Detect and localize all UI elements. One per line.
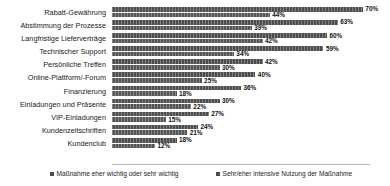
chart-row: Technischer Support59%34% (0, 45, 390, 58)
category-label: Kundenzeitschriften (0, 124, 106, 137)
legend-swatch-icon (50, 172, 54, 176)
bar-secondary (112, 78, 202, 83)
bar-group: 63%39% (112, 19, 390, 32)
bar-value-label: 39% (254, 25, 267, 31)
bar-secondary (112, 130, 187, 135)
bar-value-label: 70% (365, 6, 378, 12)
category-label: Einladungen und Präsente (0, 98, 106, 111)
legend-item-nutzung: Sehr/eher intensive Nutzung der Maßnahme (216, 170, 352, 178)
bar-group: 36%18% (112, 85, 390, 98)
bar-primary (112, 72, 255, 77)
legend-label: Maßnahme eher wichtig oder sehr wichtig (57, 170, 179, 178)
bar-group: 40%25% (112, 71, 390, 84)
bar-secondary (112, 26, 252, 31)
bar-primary (112, 7, 363, 12)
bar-secondary (112, 13, 270, 18)
bar-primary (112, 112, 209, 117)
bar-value-label: 30% (222, 98, 235, 104)
bar-group: 30%22% (112, 98, 390, 111)
chart-row: Langfristige Lieferverträge60%42% (0, 32, 390, 45)
axis-baseline (112, 164, 370, 165)
bar-primary (112, 59, 263, 64)
chart-row: VIP-Einladungen27%15% (0, 111, 390, 124)
bar-group: 24%21% (112, 124, 390, 137)
legend-item-wichtigkeit: Maßnahme eher wichtig oder sehr wichtig (50, 170, 179, 178)
chart-legend: Maßnahme eher wichtig oder sehr wichtig … (0, 170, 390, 184)
bar-primary (112, 46, 323, 51)
bar-secondary (112, 144, 155, 149)
chart-row: Einladungen und Präsente30%22% (0, 98, 390, 111)
category-label: Kundenclub (0, 137, 106, 150)
bar-value-label: 36% (244, 85, 257, 91)
bar-primary (112, 125, 198, 130)
bar-value-label: 30% (222, 65, 235, 71)
bar-value-label: 60% (330, 33, 343, 39)
bar-value-label: 59% (326, 46, 339, 52)
chart-row: Rabatt-Gewährung70%44% (0, 6, 390, 19)
bar-value-label: 42% (265, 59, 278, 65)
bar-chart: Rabatt-Gewährung70%44%Abstimmung der Pro… (0, 0, 390, 186)
category-label: Rabatt-Gewährung (0, 6, 106, 19)
bar-primary (112, 33, 327, 38)
bar-value-label: 25% (204, 78, 217, 84)
bar-secondary (112, 91, 177, 96)
bar-primary (112, 86, 241, 91)
chart-row: Kundenzeitschriften24%21% (0, 124, 390, 137)
plot-area: Rabatt-Gewährung70%44%Abstimmung der Pro… (0, 6, 390, 164)
bar-value-label: 34% (236, 51, 249, 57)
chart-title (0, 0, 390, 2)
category-label: Online-Plattform/-Forum (0, 71, 106, 84)
category-label: Technischer Support (0, 45, 106, 58)
bar-value-label: 44% (272, 12, 285, 18)
bar-value-label: 63% (340, 19, 353, 25)
category-label: Abstimmung der Prozesse (0, 19, 106, 32)
bar-group: 60%42% (112, 32, 390, 45)
bar-value-label: 18% (179, 91, 192, 97)
bar-group: 59%34% (112, 45, 390, 58)
chart-row: Finanzierung36%18% (0, 85, 390, 98)
bar-group: 70%44% (112, 6, 390, 19)
bar-value-label: 27% (211, 111, 224, 117)
legend-swatch-icon (216, 172, 220, 176)
bar-value-label: 12% (158, 143, 171, 149)
bar-secondary (112, 104, 191, 109)
chart-row: Online-Plattform/-Forum40%25% (0, 71, 390, 84)
category-label: Langfristige Lieferverträge (0, 32, 106, 45)
chart-row: Abstimmung der Prozesse63%39% (0, 19, 390, 32)
bar-value-label: 15% (168, 117, 181, 123)
bar-secondary (112, 52, 234, 57)
category-label: Persönliche Treffen (0, 58, 106, 71)
bar-value-label: 18% (179, 137, 192, 143)
bar-secondary (112, 117, 166, 122)
category-label: VIP-Einladungen (0, 111, 106, 124)
bar-value-label: 40% (258, 72, 271, 78)
bar-secondary (112, 65, 220, 70)
bar-primary (112, 20, 338, 25)
bar-secondary (112, 39, 263, 44)
legend-label: Sehr/eher intensive Nutzung der Maßnahme (223, 170, 353, 178)
chart-row: Kundenclub18%12% (0, 137, 390, 150)
bar-value-label: 42% (265, 38, 278, 44)
chart-row: Persönliche Treffen42%30% (0, 58, 390, 71)
bar-group: 42%30% (112, 58, 390, 71)
category-label: Finanzierung (0, 85, 106, 98)
bar-group: 27%15% (112, 111, 390, 124)
bar-value-label: 22% (193, 104, 206, 110)
bar-group: 18%12% (112, 137, 390, 150)
